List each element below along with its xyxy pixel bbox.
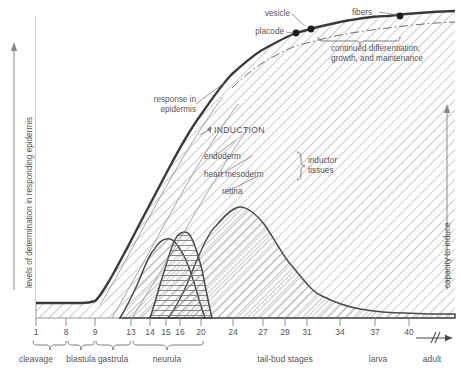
- x-tick-9: 9: [85, 327, 105, 337]
- figure-container: levels of determination in responding ep…: [0, 0, 461, 371]
- left-axis-arrow: [11, 42, 17, 290]
- x-stage-tail-bud-stages: tail-bud stages: [257, 354, 312, 364]
- label-induction: INDUCTION: [214, 125, 265, 135]
- x-tick-34: 34: [330, 327, 350, 337]
- x-tick-37: 37: [365, 327, 385, 337]
- label-heart-mesoderm: heart mesoderm: [204, 170, 264, 180]
- label-continued-line1: continued differentiation,: [331, 44, 423, 54]
- x-tick-16: 16: [170, 327, 190, 337]
- x-tick-24: 24: [223, 327, 243, 337]
- x-tick-40: 40: [399, 327, 419, 337]
- label-response-line2: epidermis: [104, 105, 196, 115]
- label-inductor-line2: tissues: [308, 166, 337, 176]
- label-placode: placode: [222, 27, 284, 37]
- label-continued-line2: growth, and maintenance: [331, 54, 423, 64]
- label-retina: retina: [222, 187, 242, 197]
- label-inductor-line1: inductor: [308, 156, 337, 166]
- adult-axis-arrow: [416, 332, 452, 343]
- label-response-in-epidermis: response in epidermis: [104, 95, 196, 114]
- x-tick-8: 8: [56, 327, 76, 337]
- x-tick-1: 1: [26, 327, 46, 337]
- label-vesicle: vesicle: [228, 9, 290, 19]
- x-stage-neurula: neurula: [153, 354, 181, 364]
- x-tick-13: 13: [121, 327, 141, 337]
- marker-placode: [293, 30, 300, 37]
- x-stage-adult: adult: [423, 354, 441, 364]
- x-tick-20: 20: [191, 327, 211, 337]
- marker-fibers: [397, 13, 404, 20]
- x-stage-cleavage: cleavage: [19, 354, 53, 364]
- label-continued-differentiation: continued differentiation, growth, and m…: [331, 44, 423, 63]
- y-axis-left-label: levels of determination in responding ep…: [25, 117, 34, 288]
- label-fibers: fibers: [352, 8, 372, 18]
- x-tick-29: 29: [275, 327, 295, 337]
- x-stage-gastrula: gastrula: [98, 354, 128, 364]
- x-tick-31: 31: [297, 327, 317, 337]
- label-endoderm: endoderm: [204, 152, 241, 162]
- stage-braces: [33, 341, 203, 350]
- marker-vesicle: [308, 26, 315, 33]
- y-axis-right-label: capacity to induce: [443, 222, 452, 288]
- label-response-line1: response in: [104, 95, 196, 105]
- x-stage-larva: larva: [369, 354, 387, 364]
- x-tick-27: 27: [253, 327, 273, 337]
- x-axis-ticks: [36, 318, 409, 326]
- label-inductor-tissues: inductor tissues: [308, 156, 337, 175]
- x-stage-blastula: blastula: [66, 354, 95, 364]
